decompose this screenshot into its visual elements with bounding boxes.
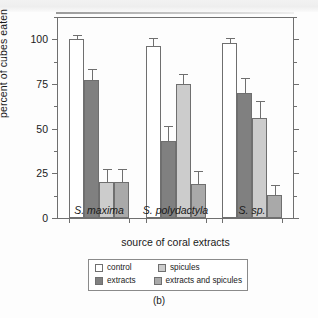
error-bar [77, 36, 78, 40]
error-bar [198, 172, 199, 185]
error-bar [92, 70, 93, 81]
error-bar [260, 102, 261, 118]
error-bar [107, 170, 108, 183]
legend-swatch-control [95, 264, 103, 272]
legend-item-spicules: spicules [158, 263, 200, 272]
y-tick-label: 50 [8, 123, 48, 135]
error-bar-cap [164, 126, 173, 127]
error-bar-cap [256, 101, 265, 102]
y-tick-major [52, 218, 57, 219]
y-tick-minor [54, 106, 57, 107]
y-axis-line [57, 17, 58, 219]
bar [222, 43, 237, 218]
error-bar-cap [73, 35, 82, 36]
y-tick-major-right [294, 84, 299, 85]
error-bar [245, 79, 246, 93]
y-axis-title: percent of cubes eaten [0, 9, 9, 118]
legend-swatch-extracts-and-spicules [154, 277, 162, 285]
legend-item-extracts-and-spicules: extracts and spicules [154, 276, 242, 285]
x-tick [146, 219, 147, 223]
error-bar [122, 170, 123, 183]
legend-item-control: control [95, 263, 158, 272]
y-tick-major [52, 84, 57, 85]
figure-caption: (b) [0, 295, 318, 306]
x-tick [69, 219, 70, 223]
legend-item-extracts: extracts [95, 276, 154, 285]
bar [252, 118, 267, 218]
error-bar [183, 75, 184, 84]
error-bar [275, 186, 276, 195]
scan-rule [56, 12, 294, 14]
error-bar-cap [179, 74, 188, 75]
error-bar-cap [226, 38, 235, 39]
figure-panel-b: 0255075100 percent of cubes eaten S. max… [0, 0, 318, 318]
error-bar [230, 39, 231, 43]
bar [237, 93, 252, 218]
error-bar-cap [271, 185, 280, 186]
x-tick [129, 219, 130, 223]
legend-label-spicules: spicules [170, 263, 200, 272]
legend-row: control spicules [95, 263, 242, 276]
y-tick-major-right [294, 39, 299, 40]
y-tick-label: 0 [8, 212, 48, 224]
legend-swatch-extracts [95, 277, 103, 285]
error-bar-cap [241, 78, 250, 79]
scan-band [0, 0, 318, 12]
plot-area: 0255075100 [57, 17, 294, 219]
legend-row: extracts extracts and spicules [95, 276, 242, 289]
chart-legend: control spicules extracts extracts and s… [88, 259, 248, 291]
y-tick-minor [294, 196, 297, 197]
legend-label-extracts-and-spicules: extracts and spicules [166, 276, 242, 285]
bar [146, 46, 161, 218]
x-tick [282, 219, 283, 223]
y-tick-minor [294, 151, 297, 152]
y-tick-major [52, 39, 57, 40]
plot-frame-right [293, 17, 294, 219]
plot-frame-top [57, 17, 294, 18]
legend-swatch-spicules [158, 264, 166, 272]
bar [84, 80, 99, 218]
error-bar-cap [88, 69, 97, 70]
y-tick-minor [54, 62, 57, 63]
y-tick-minor [54, 17, 57, 18]
y-tick-minor [294, 17, 297, 18]
legend-label-control: control [107, 263, 132, 272]
error-bar-cap [103, 169, 112, 170]
x-tick [206, 219, 207, 223]
error-bar [153, 39, 154, 46]
y-tick-major-right [294, 129, 299, 130]
x-tick [222, 219, 223, 223]
x-category-label: S. sp. [239, 204, 266, 216]
x-axis-line [57, 218, 294, 219]
y-tick-label: 100 [8, 33, 48, 45]
y-tick-major-right [294, 218, 299, 219]
error-bar-cap [149, 38, 158, 39]
x-category-label: S. polydactyla [143, 204, 208, 216]
bar [267, 195, 282, 218]
legend-label-extracts: extracts [107, 276, 136, 285]
x-axis-title: source of coral extracts [57, 236, 294, 248]
y-tick-label: 75 [8, 78, 48, 90]
bar [176, 84, 191, 218]
error-bar [168, 127, 169, 141]
y-tick-minor [294, 62, 297, 63]
y-tick-minor [294, 106, 297, 107]
error-bar-cap [194, 171, 203, 172]
y-tick-minor [54, 196, 57, 197]
y-tick-major [52, 129, 57, 130]
y-tick-major-right [294, 173, 299, 174]
y-tick-label: 25 [8, 167, 48, 179]
y-tick-minor [54, 151, 57, 152]
y-tick-major [52, 173, 57, 174]
x-category-label: S. maxima [74, 204, 124, 216]
bar [69, 39, 84, 218]
error-bar-cap [118, 169, 127, 170]
